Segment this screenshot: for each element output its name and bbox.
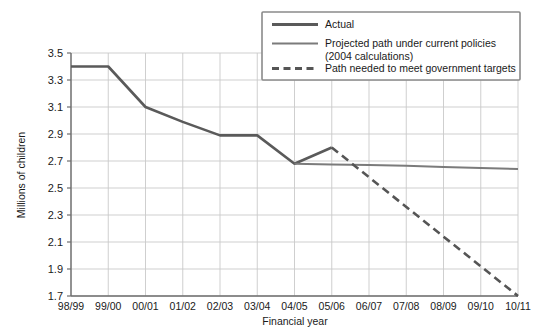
y-tick-label: 2.5 [48, 182, 63, 194]
x-tick-label: 98/99 [58, 300, 84, 312]
y-tick-label: 2.7 [48, 155, 63, 167]
x-tick-label: 07/08 [393, 300, 419, 312]
line-chart: 3.53.33.12.92.72.52.32.11.91.7 98/9999/0… [0, 0, 550, 333]
y-tick-label: 1.9 [48, 263, 63, 275]
legend-label-line2: (2004 calculations) [325, 50, 413, 62]
x-tick-label: 99/00 [95, 300, 121, 312]
y-tick-label: 3.5 [48, 47, 63, 59]
x-axis-title: Financial year [262, 315, 328, 327]
y-tick-label: 3.3 [48, 74, 63, 86]
y-tick-label: 2.9 [48, 128, 63, 140]
x-tick-label: 08/09 [430, 300, 456, 312]
x-tick-label: 03/04 [244, 300, 270, 312]
legend-label: Projected path under current policies [325, 37, 496, 49]
x-tick-label: 00/01 [132, 300, 158, 312]
grid-lines [71, 53, 518, 296]
x-tick-label: 01/02 [170, 300, 196, 312]
y-tick-label: 3.1 [48, 101, 63, 113]
series-line-dashed [332, 148, 518, 297]
legend-label: Actual [325, 18, 354, 30]
x-tick-label: 06/07 [356, 300, 382, 312]
y-axis-title: Millions of children [15, 132, 27, 219]
x-tick-label: 09/10 [468, 300, 494, 312]
legend-label: Path needed to meet government targets [325, 62, 516, 74]
x-tick-label: 05/06 [319, 300, 345, 312]
y-tick-labels: 3.53.33.12.92.72.52.32.11.91.7 [48, 47, 63, 302]
legend: ActualProjected path under current polic… [262, 12, 520, 80]
chart-container: 3.53.33.12.92.72.52.32.11.91.7 98/9999/0… [0, 0, 550, 333]
series-line-solid [71, 67, 332, 164]
x-tick-label: 10/11 [505, 300, 531, 312]
y-tick-label: 2.1 [48, 236, 63, 248]
y-tick-label: 2.3 [48, 209, 63, 221]
x-tick-labels: 98/9999/0000/0101/0202/0303/0404/0505/06… [58, 300, 531, 312]
x-tick-label: 04/05 [281, 300, 307, 312]
x-tick-label: 02/03 [207, 300, 233, 312]
